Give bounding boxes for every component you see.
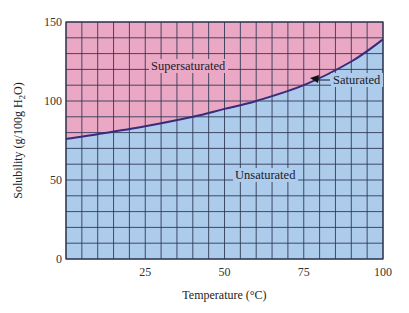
saturated-label: Saturated xyxy=(333,73,381,87)
y-axis-ticks: 050100150 xyxy=(44,15,62,266)
x-axis-ticks: 255075100 xyxy=(139,265,392,279)
solubility-chart: 050100150 255075100 Supersaturated Unsat… xyxy=(0,0,409,313)
grid-lines xyxy=(66,22,383,259)
y-axis-label: Solubility (g/100g H2O) xyxy=(11,82,27,199)
y-tick-label: 150 xyxy=(44,15,62,29)
x-tick-label: 25 xyxy=(139,265,151,279)
x-axis-label: Temperature (°C) xyxy=(182,288,266,302)
x-tick-label: 100 xyxy=(374,265,392,279)
y-tick-label: 50 xyxy=(50,173,62,187)
y-tick-label: 0 xyxy=(56,252,62,266)
y-tick-label: 100 xyxy=(44,94,62,108)
plot-area xyxy=(66,22,383,259)
x-tick-label: 50 xyxy=(219,265,231,279)
unsaturated-label: Unsaturated xyxy=(235,168,296,182)
label-unsaturated: Unsaturated xyxy=(233,168,298,182)
label-supersaturated: Supersaturated xyxy=(149,59,228,73)
supersaturated-label: Supersaturated xyxy=(151,59,226,73)
x-tick-label: 75 xyxy=(298,265,310,279)
